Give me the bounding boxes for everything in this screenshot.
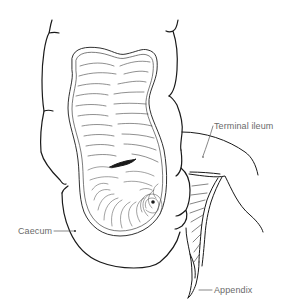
appendix <box>186 172 222 298</box>
caecum-interior <box>68 47 167 236</box>
anatomical-diagram <box>0 0 289 305</box>
label-appendix: Appendix <box>214 285 252 295</box>
terminal-ileum <box>182 132 263 232</box>
leader-lines <box>54 126 213 290</box>
ileocaecal-valve <box>110 159 136 167</box>
label-terminal-ileum: Terminal ileum <box>214 121 273 131</box>
label-caecum: Caecum <box>18 226 52 236</box>
appendix-orifice <box>151 200 155 204</box>
